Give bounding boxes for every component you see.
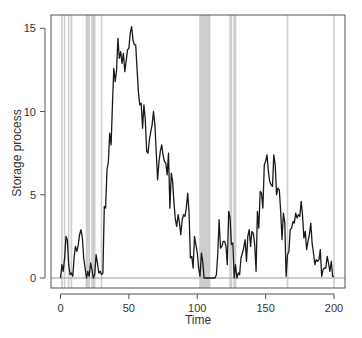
empty-period-band: [101, 15, 103, 288]
empty-period-band: [209, 15, 211, 288]
x-tick-label: 200: [325, 302, 343, 314]
x-tick-label: 150: [256, 302, 274, 314]
y-tick-label: 0: [30, 272, 36, 284]
empty-period-band: [206, 15, 208, 288]
y-axis: 051015: [24, 22, 45, 284]
empty-period-band: [87, 15, 89, 288]
x-tick-label: 50: [123, 302, 135, 314]
empty-period-band: [199, 15, 201, 288]
x-axis: 050100150200: [57, 294, 343, 314]
storage-process-chart: 050100150200 051015 Time Storage process: [0, 0, 362, 338]
y-tick-label: 10: [24, 106, 36, 118]
y-tick-label: 5: [30, 189, 36, 201]
empty-period-band: [235, 15, 237, 288]
empty-period-band: [333, 15, 335, 288]
empty-period-band: [205, 15, 207, 288]
empty-period-band: [93, 15, 95, 288]
y-tick-label: 15: [24, 22, 36, 34]
x-tick-label: 0: [57, 302, 63, 314]
empty-period-band: [91, 15, 93, 288]
empty-period-band: [201, 15, 203, 288]
empty-period-band: [86, 15, 88, 288]
empty-period-band: [231, 15, 233, 288]
empty-period-band: [207, 15, 209, 288]
empty-period-bands: [61, 15, 335, 288]
empty-period-band: [71, 15, 73, 288]
empty-period-band: [88, 15, 90, 288]
empty-period-band: [94, 15, 96, 288]
empty-period-band: [202, 15, 204, 288]
x-axis-label: Time: [185, 313, 212, 327]
empty-period-band: [229, 15, 231, 288]
empty-period-band: [203, 15, 205, 288]
empty-period-band: [61, 15, 63, 288]
y-axis-label: Storage process: [10, 109, 24, 196]
empty-period-band: [287, 15, 289, 288]
